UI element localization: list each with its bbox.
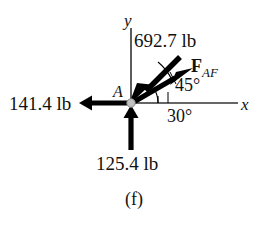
force-label-125: 125.4 lb <box>96 154 158 173</box>
x-axis-label: x <box>241 96 249 113</box>
force-label-faf-main: F <box>191 56 202 76</box>
force-label-faf-sub: AF <box>202 65 218 80</box>
joint-pin-A <box>127 99 135 107</box>
figure-canvas: 692.7 lb FAF 45° 30° 141.4 lb 125.4 lb y… <box>0 0 264 241</box>
force-label-692: 692.7 lb <box>134 31 196 50</box>
force-label-141: 141.4 lb <box>9 94 71 113</box>
angle-label-45: 45° <box>175 76 200 94</box>
figure-caption: (f) <box>125 190 143 208</box>
angle-label-30: 30° <box>167 107 192 125</box>
force-arrow-125 <box>124 105 139 150</box>
point-label-a: A <box>113 84 123 100</box>
y-axis-label: y <box>124 12 132 29</box>
